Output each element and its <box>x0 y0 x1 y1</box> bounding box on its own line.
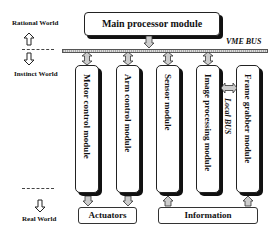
motor-control-module: Motor control module <box>75 65 99 193</box>
instinct-world-label: Instinct World <box>14 70 58 78</box>
image-processing-module: Image processing module <box>196 65 220 193</box>
main-processor-module: Main processor module <box>84 12 220 36</box>
motor-control-module-label: Motor control module <box>82 74 92 159</box>
bus-motor-arrow-icon <box>81 52 93 65</box>
information-to-frame-arrow-icon <box>242 196 254 207</box>
level-divider-top <box>22 49 54 50</box>
frame-grabber-module: Frame grabber module <box>236 65 260 193</box>
information-box: Information <box>158 207 258 224</box>
sensor-module-label: Sensor module <box>163 74 173 131</box>
arm-control-module-label: Arm control module <box>123 74 133 152</box>
actuators-box: Actuators <box>78 207 137 224</box>
rational-world-label: Rational World <box>12 19 58 27</box>
level-divider-bottom <box>22 188 54 189</box>
bus-arm-arrow-icon <box>122 52 134 65</box>
main-to-bus-arrow-icon <box>143 36 155 49</box>
frame-grabber-module-label: Frame grabber module <box>243 74 253 163</box>
bus-image-arrow-icon <box>202 52 214 65</box>
down-arrow-real-icon <box>33 199 47 213</box>
image-processing-module-label: Image processing module <box>203 74 213 171</box>
arm-control-module: Arm control module <box>116 65 140 193</box>
down-arrow-icon <box>22 52 36 66</box>
information-to-sensor-arrow-icon <box>162 196 174 207</box>
local-bus-arrow-icon <box>221 82 237 94</box>
local-bus-label: Local BUS <box>223 98 232 134</box>
motor-to-actuators-arrow-icon <box>82 196 94 207</box>
arm-to-actuators-arrow-icon <box>122 196 134 207</box>
real-world-label: Real World <box>22 215 56 223</box>
sensor-module: Sensor module <box>156 65 180 193</box>
bus-sensor-arrow-icon <box>162 52 174 65</box>
up-arrow-icon <box>22 32 36 46</box>
vme-bus-label: VME BUS <box>226 37 261 46</box>
